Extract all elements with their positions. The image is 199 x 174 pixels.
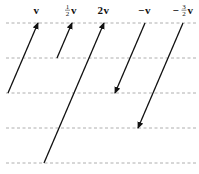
vector-symbol-v: v xyxy=(71,4,77,16)
vector-half-v-arrow xyxy=(57,23,72,58)
label-neg-three-halves-v: −32v xyxy=(173,3,194,18)
label-half-v: 12v xyxy=(65,3,77,18)
label-prefix: − xyxy=(173,4,179,16)
vector-neg-three-halves-v-arrow xyxy=(138,23,183,128)
vector-symbol-v: v xyxy=(145,4,151,16)
dashed-gridlines xyxy=(6,23,196,163)
vector-diagram: v12v2v−v−32v xyxy=(0,0,199,174)
vector-symbol-v: v xyxy=(34,4,40,16)
label-neg-v: −v xyxy=(138,4,151,16)
label-v: v xyxy=(34,4,40,16)
fraction-denominator: 2 xyxy=(182,10,186,18)
vector-symbol-v: v xyxy=(188,4,194,16)
fraction-denominator: 2 xyxy=(66,10,70,18)
label-prefix: − xyxy=(138,4,144,16)
vector-labels: v12v2v−v−32v xyxy=(34,3,194,18)
vector-symbol-v: v xyxy=(104,4,110,16)
label-two-v: 2v xyxy=(98,4,110,16)
